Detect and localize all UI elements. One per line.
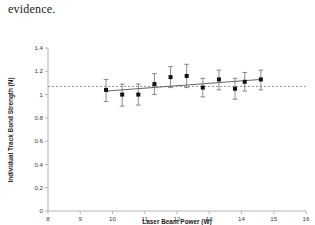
data-point-marker xyxy=(259,77,263,81)
x-tick-label: 9 xyxy=(79,215,83,222)
x-axis-title: Laser Beam Power (W) xyxy=(142,218,211,225)
data-point-marker xyxy=(243,80,247,84)
trend-fit-line xyxy=(106,79,261,91)
y-tick-label: 0.4 xyxy=(34,161,43,168)
data-point-marker xyxy=(169,75,173,79)
figure-page: evidence. 00.20.40.60.811.21.4 891011121… xyxy=(0,0,315,225)
data-point-marker xyxy=(217,77,221,81)
y-tick-label: 1.2 xyxy=(34,67,43,74)
x-tick-label: 10 xyxy=(109,215,116,222)
data-point-marker xyxy=(120,93,124,97)
x-tick-label: 14 xyxy=(238,215,245,222)
x-tick-label: 16 xyxy=(303,215,310,222)
data-point-marker xyxy=(201,86,205,90)
y-axis-title: Individual Track Bond Strength (N) xyxy=(7,77,15,182)
trend-line xyxy=(106,79,261,91)
x-tick-label: 8 xyxy=(46,215,50,222)
chart-figure: 00.20.40.60.811.21.4 8910111213141516 La… xyxy=(0,18,315,225)
y-tick-label: 0.8 xyxy=(34,114,43,121)
data-point-marker xyxy=(233,87,237,91)
data-point-marker xyxy=(152,82,156,86)
y-tick-label: 1.4 xyxy=(34,44,43,51)
document-body-text: evidence. xyxy=(8,2,55,17)
scatter-plot-svg: 00.20.40.60.811.21.4 8910111213141516 La… xyxy=(0,18,315,225)
x-tick-label: 15 xyxy=(270,215,277,222)
data-point-marker xyxy=(136,93,140,97)
y-tick-label-group: 00.20.40.60.811.21.4 xyxy=(34,44,43,214)
y-tick-label: 0 xyxy=(40,207,44,214)
data-point-marker xyxy=(104,88,108,92)
y-tick-label: 1 xyxy=(40,91,44,98)
y-tick-label: 0.6 xyxy=(34,137,43,144)
data-point-marker xyxy=(185,74,189,78)
y-tick-label: 0.2 xyxy=(34,184,43,191)
